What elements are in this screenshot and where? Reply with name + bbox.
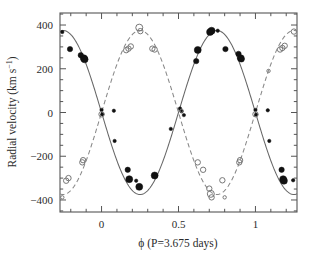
svg-text:Radial velocity (km s−1): Radial velocity (km s−1) xyxy=(5,56,20,167)
x-tick-label: 0.5 xyxy=(172,218,186,230)
data-point-primary xyxy=(126,176,133,183)
data-point-primary xyxy=(113,139,116,142)
data-point-primary xyxy=(194,58,199,63)
x-tick-label: 1 xyxy=(253,218,259,230)
data-point-primary xyxy=(125,167,130,172)
radial-velocity-figure: 00.51 −400−2000200400 ϕ (P=3.675 days) R… xyxy=(0,0,314,262)
data-point-primary xyxy=(194,46,201,53)
data-point-primary xyxy=(136,183,143,190)
y-title-tail: ) xyxy=(6,56,19,60)
radial-velocity-plot: 00.51 −400−2000200400 ϕ (P=3.675 days) R… xyxy=(0,0,314,262)
data-point-primary xyxy=(216,29,219,32)
y-tick-label: 200 xyxy=(37,63,54,75)
data-point-primary xyxy=(182,113,185,116)
data-point-primary xyxy=(266,109,269,112)
data-point-primary xyxy=(223,46,228,51)
data-point-primary xyxy=(81,56,88,63)
data-point-primary xyxy=(61,30,64,33)
period-text: (P=3.675 days) xyxy=(144,237,217,250)
figure-background xyxy=(0,0,314,262)
y-tick-label: −400 xyxy=(30,194,53,206)
data-point-primary xyxy=(169,127,172,130)
data-point-primary xyxy=(239,57,244,62)
y-title-exponent: −1 xyxy=(5,60,14,69)
data-point-primary xyxy=(208,27,215,34)
y-tick-label: 0 xyxy=(48,107,54,119)
y-tick-label: 400 xyxy=(37,19,54,31)
data-point-primary xyxy=(67,46,72,51)
x-tick-label: 0 xyxy=(99,218,105,230)
data-point-primary xyxy=(112,109,115,112)
data-point-primary xyxy=(151,172,158,179)
data-point-primary xyxy=(134,179,137,182)
data-point-primary xyxy=(291,179,294,182)
data-point-primary xyxy=(280,177,287,184)
data-point-primary xyxy=(268,139,271,142)
y-axis-title: Radial velocity (km s−1) xyxy=(5,56,20,167)
data-point-primary xyxy=(279,167,284,172)
x-axis-title: ϕ (P=3.675 days) xyxy=(138,237,217,250)
y-tick-label: −200 xyxy=(30,150,53,162)
y-title-main: Radial velocity (km s xyxy=(6,68,19,167)
